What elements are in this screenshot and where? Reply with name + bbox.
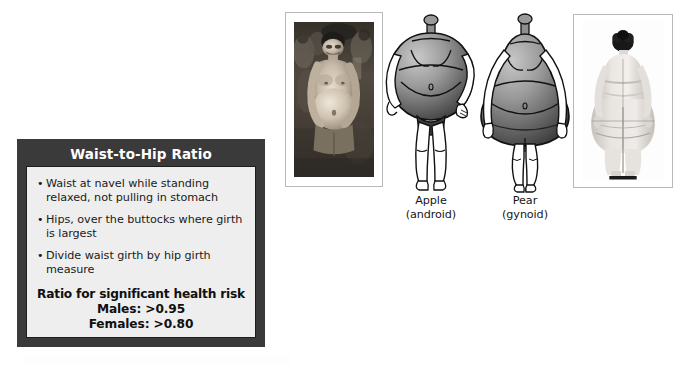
- card-body-panel: • Waist at navel while standing relaxed,…: [26, 166, 256, 338]
- figure-pear-gynoid: Pear (gynoid): [473, 10, 577, 222]
- photo-android-artwork: [294, 22, 374, 177]
- list-item: • Hips, over the buttocks where girth is…: [35, 213, 247, 240]
- pear-label-subtitle: (gynoid): [473, 208, 577, 221]
- apple-label-subtitle: (android): [381, 208, 481, 221]
- list-item: • Divide waist girth by hip girth measur…: [35, 249, 247, 276]
- photo-gynoid-obesity: [582, 21, 664, 181]
- photo-android-obesity: [294, 22, 374, 177]
- bottom-edge-artifact: [24, 356, 290, 364]
- bullet-text: Waist at navel while standing relaxed, n…: [46, 177, 247, 204]
- bullet-text: Hips, over the buttocks where girth is l…: [46, 213, 247, 240]
- apple-label-name: Apple: [381, 194, 481, 207]
- bullet-icon: •: [35, 213, 46, 227]
- photo-frame-gynoid: [573, 14, 673, 188]
- photo-gynoid-artwork: [582, 21, 664, 181]
- body-shape-figures: Apple (android): [281, 8, 679, 223]
- card-title: Waist-to-Hip Ratio: [21, 144, 261, 166]
- risk-ratio-heading: Ratio for significant health risk: [35, 286, 247, 302]
- list-item: • Waist at navel while standing relaxed,…: [35, 177, 247, 204]
- bullet-icon: •: [35, 249, 46, 263]
- photo-frame-android: [285, 12, 383, 187]
- risk-ratio-females: Females: >0.80: [35, 317, 247, 332]
- risk-ratio-block: Ratio for significant health risk Males:…: [35, 286, 247, 332]
- apple-body-illustration: [381, 10, 481, 193]
- risk-ratio-males: Males: >0.95: [35, 302, 247, 317]
- bullet-text: Divide waist girth by hip girth measure: [46, 249, 247, 276]
- bullet-icon: •: [35, 177, 46, 191]
- pear-label-name: Pear: [473, 194, 577, 207]
- pear-body-illustration: [473, 10, 577, 193]
- figure-apple-android: Apple (android): [381, 10, 481, 222]
- waist-to-hip-ratio-card: Waist-to-Hip Ratio • Waist at navel whil…: [17, 139, 265, 347]
